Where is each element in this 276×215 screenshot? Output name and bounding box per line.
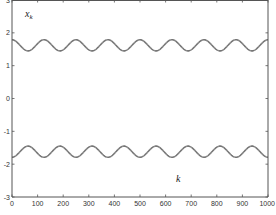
x-tick-label: 700 (185, 200, 197, 207)
chart-background (0, 0, 276, 215)
x-tick-label: 200 (57, 200, 69, 207)
y-tick-label: 2 (6, 29, 10, 36)
x-tick-label: 100 (32, 200, 44, 207)
x-tick-label: 0 (10, 200, 14, 207)
x-tick-label: 600 (160, 200, 172, 207)
x-axis-label: k (176, 173, 181, 184)
y-tick-label: 3 (6, 0, 10, 4)
x-tick-label: 300 (83, 200, 95, 207)
line-chart: -3-2-10123 01002003004005006007008009001… (0, 0, 276, 215)
x-tick-label: 500 (134, 200, 146, 207)
y-tick-label: 0 (6, 95, 10, 102)
y-tick-label: -1 (4, 128, 10, 135)
y-tick-label: 1 (6, 62, 10, 69)
x-tick-label: 900 (237, 200, 249, 207)
x-tick-label: 400 (109, 200, 121, 207)
x-tick-label: 800 (211, 200, 223, 207)
x-tick-label: 1000 (259, 200, 275, 207)
y-tick-label: -2 (4, 161, 10, 168)
